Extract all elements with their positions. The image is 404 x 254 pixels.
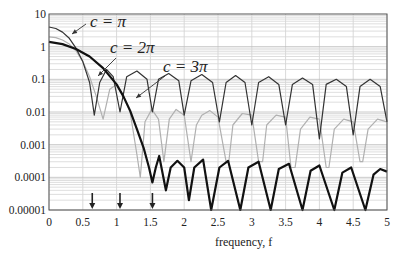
y-tick-label: 1 — [40, 41, 46, 53]
x-tick-label: 2.5 — [211, 216, 226, 228]
y-axis-ticks: 1010.10.010.0010.00010.00001 — [9, 8, 47, 216]
down-arrow-head-icon — [89, 203, 95, 209]
y-tick-label: 0.00001 — [9, 204, 47, 216]
x-tick-label: 2 — [181, 216, 187, 228]
annotation-arrow-head-icon — [136, 93, 141, 98]
y-tick-label: 10 — [35, 8, 47, 20]
series-annotation-label: c = 3π — [163, 57, 208, 76]
x-tick-label: 1.5 — [143, 216, 158, 228]
annotation-arrow-head-icon — [72, 29, 77, 34]
x-tick-label: 5 — [384, 216, 390, 228]
y-tick-label: 0.001 — [20, 139, 46, 151]
series-annotation-label: c = 2π — [110, 38, 155, 57]
x-tick-label: 4 — [317, 216, 323, 228]
x-tick-label: 4.5 — [346, 216, 361, 228]
x-tick-label: 3.5 — [278, 216, 293, 228]
y-tick-label: 0.0001 — [14, 171, 46, 183]
x-axis-arrows — [89, 193, 155, 209]
y-tick-label: 0.1 — [32, 73, 47, 85]
chart: 1010.10.010.0010.00010.00001 00.511.522.… — [0, 0, 404, 254]
x-axis-ticks: 00.511.522.533.544.55 — [46, 216, 390, 228]
y-tick-label: 0.01 — [26, 106, 46, 118]
x-tick-label: 3 — [249, 216, 255, 228]
series-annotation-label: c = π — [90, 12, 127, 31]
x-tick-label: 0 — [46, 216, 52, 228]
x-tick-label: 1 — [114, 216, 120, 228]
x-axis-label: frequency, f — [215, 235, 272, 249]
down-arrow-head-icon — [117, 203, 123, 209]
x-tick-label: 0.5 — [76, 216, 91, 228]
